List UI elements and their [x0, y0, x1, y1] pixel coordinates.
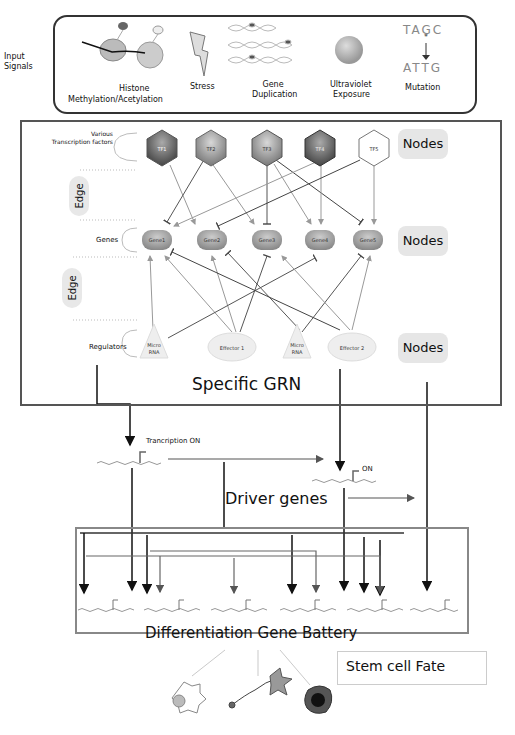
gene1-label: Gene1 [142, 237, 172, 243]
microrna-2-line2: RNA [285, 349, 309, 356]
mutation-seq-top: TAGC [403, 23, 443, 37]
flower-cell-icon [172, 682, 206, 713]
uv-sphere-icon [335, 36, 363, 64]
driver-gene-strand-1 [97, 452, 161, 465]
input-gene-line2: Duplication [252, 90, 297, 99]
microrna-1-line2: RNA [142, 349, 166, 356]
regulators-label: Regulators [89, 343, 127, 351]
gene2-label: Gene2 [197, 237, 227, 243]
regulator-effector-2: Effector 2 [332, 345, 372, 351]
dark-cell-icon [305, 686, 332, 713]
regulator-effector-1: Effector 1 [212, 345, 252, 351]
grn-box [20, 120, 502, 406]
nodes-pill-tf: Nodes [398, 129, 448, 159]
tf2-label: TF2 [204, 146, 218, 152]
dna-helix-icon [228, 23, 292, 63]
neuron-icon [229, 668, 292, 708]
tf4-label: TF4 [313, 146, 327, 152]
input-mutation-label: Mutation [405, 83, 440, 92]
tf-label-line2: Transcription factors [43, 138, 113, 146]
differentiation-battery-box [75, 527, 469, 634]
histone-icon [82, 22, 163, 68]
on-label: ON [362, 465, 373, 473]
input-histone-line2: Methylation/Acetylation [68, 95, 163, 104]
input-uv-line2: Exposure [333, 90, 370, 99]
edge-pill-1: Edge [69, 176, 89, 216]
nodes-pill-regulators: Nodes [398, 333, 448, 363]
lightning-icon [190, 32, 208, 76]
driver-genes-title: Driver genes [225, 489, 328, 508]
edge-label-2: Edge [67, 275, 78, 300]
input-histone-line1: Histone [119, 84, 149, 93]
tf1-label: TF1 [155, 146, 169, 152]
gene5-label: Gene5 [353, 237, 383, 243]
mutation-seq-bottom: ATTG [403, 61, 442, 75]
input-uv-line1: Ultraviolet [330, 80, 372, 89]
gene3-label: Gene3 [252, 237, 282, 243]
grn-title: Specific GRN [192, 374, 301, 394]
regulator-microrna-2: Micro RNA [285, 342, 309, 356]
mutation-icon: * [422, 33, 430, 60]
tf5-label: TF5 [367, 146, 381, 152]
edge-label-1: Edge [74, 183, 85, 208]
input-gene-line1: Gene [258, 80, 288, 89]
genes-label: Genes [96, 236, 118, 244]
battery-title: Differentiation Gene Battery [145, 624, 357, 642]
gene4-label: Gene4 [305, 237, 335, 243]
regulator-microrna-1: Micro RNA [142, 342, 166, 356]
microrna-1-line1: Micro [142, 342, 166, 349]
edge-pill-2: Edge [62, 268, 82, 308]
input-stress-label: Stress [190, 82, 215, 91]
nodes-pill-genes: Nodes [398, 226, 448, 256]
transcription-on-label: Trancription ON [146, 437, 200, 445]
tf3-label: TF3 [260, 146, 274, 152]
tf-label: Various Transcription factors [43, 130, 113, 146]
tf-label-line1: Various [43, 130, 113, 138]
microrna-2-line1: Micro [285, 342, 309, 349]
stem-cell-fate-title: Stem cell Fate [346, 658, 445, 674]
